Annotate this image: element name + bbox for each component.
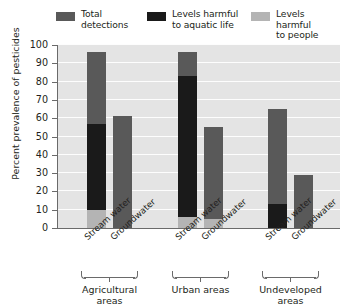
legend-label-total-detections: Total detections bbox=[81, 9, 128, 30]
y-tick-30 bbox=[52, 173, 57, 174]
y-tick-70 bbox=[52, 100, 57, 101]
brace-center-tick bbox=[290, 277, 291, 282]
y-tick-label-100: 100 bbox=[22, 40, 48, 50]
y-tick-0 bbox=[52, 228, 57, 229]
group-label: Undeveloped areas bbox=[250, 284, 331, 306]
brace-right-curve bbox=[224, 271, 229, 279]
legend-swatch-total-detections bbox=[56, 12, 75, 21]
legend-swatch-harmful-people bbox=[251, 12, 270, 21]
brace-right-curve bbox=[314, 271, 319, 279]
y-tick-60 bbox=[52, 118, 57, 119]
brace-right-curve bbox=[133, 271, 138, 279]
y-tick-80 bbox=[52, 82, 57, 83]
legend-swatch-harmful-aquatic-life bbox=[147, 12, 166, 21]
y-tick-label-50: 50 bbox=[22, 132, 48, 142]
brace-center-tick bbox=[200, 277, 201, 282]
y-tick-label-90: 90 bbox=[22, 58, 48, 68]
group-brace bbox=[81, 270, 138, 282]
y-axis-title: Percent prevalence of pesticides bbox=[10, 19, 21, 189]
y-tick-40 bbox=[52, 155, 57, 156]
legend-label-harmful-aquatic-life: Levels harmful to aquatic life bbox=[172, 9, 238, 30]
brace-center-tick bbox=[109, 277, 110, 282]
y-tick-label-0: 0 bbox=[22, 223, 48, 233]
group-label: Agricultural areas bbox=[69, 284, 150, 306]
y-tick-label-30: 30 bbox=[22, 168, 48, 178]
chart-legend: Total detections Levels harmful to aquat… bbox=[56, 9, 340, 39]
group-label: Urban areas bbox=[160, 284, 241, 295]
group-brace bbox=[262, 270, 319, 282]
bar[interactable] bbox=[268, 109, 287, 228]
y-tick-90 bbox=[52, 63, 57, 64]
gridline-100 bbox=[58, 44, 340, 45]
legend-item-harmful-aquatic-life: Levels harmful to aquatic life bbox=[147, 9, 238, 30]
bar[interactable] bbox=[87, 52, 106, 228]
y-axis-line bbox=[57, 45, 58, 229]
group-brace bbox=[172, 270, 229, 282]
legend-item-total-detections: Total detections bbox=[56, 9, 128, 30]
y-tick-50 bbox=[52, 137, 57, 138]
y-tick-label-80: 80 bbox=[22, 77, 48, 87]
y-tick-label-60: 60 bbox=[22, 113, 48, 123]
bar-segment-harmful-aquatic-life bbox=[178, 76, 197, 228]
y-tick-label-40: 40 bbox=[22, 150, 48, 160]
y-tick-100 bbox=[52, 45, 57, 46]
y-tick-label-20: 20 bbox=[22, 186, 48, 196]
legend-item-harmful-people: Levels harmful to people bbox=[251, 9, 340, 41]
legend-label-harmful-people: Levels harmful to people bbox=[276, 9, 340, 41]
y-tick-label-70: 70 bbox=[22, 95, 48, 105]
y-tick-20 bbox=[52, 191, 57, 192]
y-tick-label-10: 10 bbox=[22, 205, 48, 215]
y-tick-10 bbox=[52, 210, 57, 211]
bar[interactable] bbox=[178, 52, 197, 228]
